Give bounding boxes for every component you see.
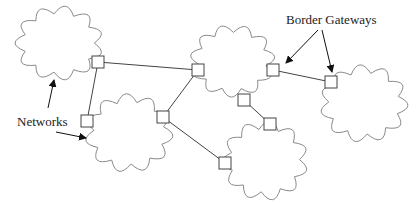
gateway-g8 xyxy=(325,76,337,88)
gateway-g2 xyxy=(192,64,204,76)
link-g2-g4 xyxy=(163,70,198,117)
gateway-g4 xyxy=(157,111,169,123)
arrow-networks-to-net-a xyxy=(48,80,54,108)
gateway-g5 xyxy=(267,64,279,76)
networks-label: Networks xyxy=(17,114,68,130)
arrow-networks-to-net-b xyxy=(56,132,86,138)
gateway-g7 xyxy=(264,118,276,130)
gateway-g3 xyxy=(81,115,93,127)
border-gateways-label: Border Gateways xyxy=(286,12,377,28)
network-cloud-net-d xyxy=(222,121,307,200)
link-g5-g8 xyxy=(273,70,331,82)
link-g1-g2 xyxy=(98,62,198,70)
network-cloud-net-a xyxy=(15,6,101,80)
network-cloud-net-c xyxy=(191,26,275,97)
link-g4-g9 xyxy=(163,117,225,163)
network-cloud-net-b xyxy=(86,94,173,172)
network-diagram: Border Gateways Networks xyxy=(0,0,418,204)
gateway-g6 xyxy=(238,94,250,106)
gateway-g1 xyxy=(92,56,104,68)
arrow-border-to-g8 xyxy=(322,30,332,72)
diagram-svg xyxy=(0,0,418,204)
gateway-g9 xyxy=(219,157,231,169)
arrow-border-to-g5 xyxy=(286,30,318,63)
networks-layer xyxy=(15,6,408,200)
